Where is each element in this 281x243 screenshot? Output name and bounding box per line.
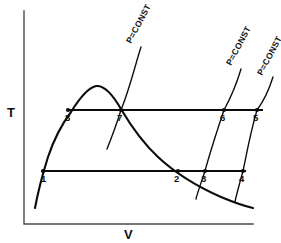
state-label-3: 3: [201, 173, 206, 184]
x-axis-label: V: [124, 227, 133, 242]
state-label-1: 1: [41, 173, 47, 184]
diagram-canvas: 1 2 3 4 5 6 7 8 P=CONST P=CONST P=CONST …: [0, 0, 281, 243]
state-label-5: 5: [253, 112, 259, 123]
state-label-8: 8: [65, 112, 70, 123]
isobar-label-left: P=CONST: [124, 2, 153, 45]
state-label-4: 4: [239, 173, 245, 184]
isobar-label-middle: P=CONST: [224, 24, 253, 67]
saturation-dome-curve: [35, 86, 253, 208]
state-label-2: 2: [174, 173, 179, 184]
state-label-7: 7: [117, 112, 122, 123]
y-axis-label: T: [7, 105, 15, 120]
axis-frame: [24, 11, 253, 224]
isobar-label-right: P=CONST: [255, 34, 281, 77]
isobar-line-left: [107, 47, 141, 149]
thermodynamic-tv-diagram: 1 2 3 4 5 6 7 8 P=CONST P=CONST P=CONST …: [0, 0, 281, 243]
state-label-6: 6: [220, 112, 225, 123]
